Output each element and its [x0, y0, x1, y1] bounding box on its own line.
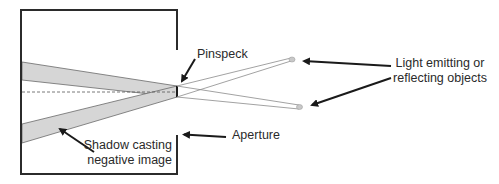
upper-light-object — [289, 57, 295, 62]
lower-object-arrow — [312, 78, 391, 105]
pinspeck-camera-diagram — [0, 0, 499, 184]
shadow-label-line2: negative image — [80, 153, 172, 168]
lower-light-object — [297, 105, 303, 110]
aperture-label: Aperture — [232, 128, 280, 143]
objects-label-line2: reflecting objects — [393, 71, 487, 86]
pinspeck-label: Pinspeck — [197, 47, 248, 62]
shadow-label-line1: Shadow casting — [80, 138, 172, 153]
objects-label-line1: Light emitting or — [393, 56, 487, 71]
aperture-arrow — [184, 135, 226, 138]
lower-shadow — [22, 86, 177, 143]
pinspeck-arrow — [182, 59, 195, 81]
light-rays — [177, 58, 299, 109]
upper-object-arrow — [304, 61, 391, 66]
